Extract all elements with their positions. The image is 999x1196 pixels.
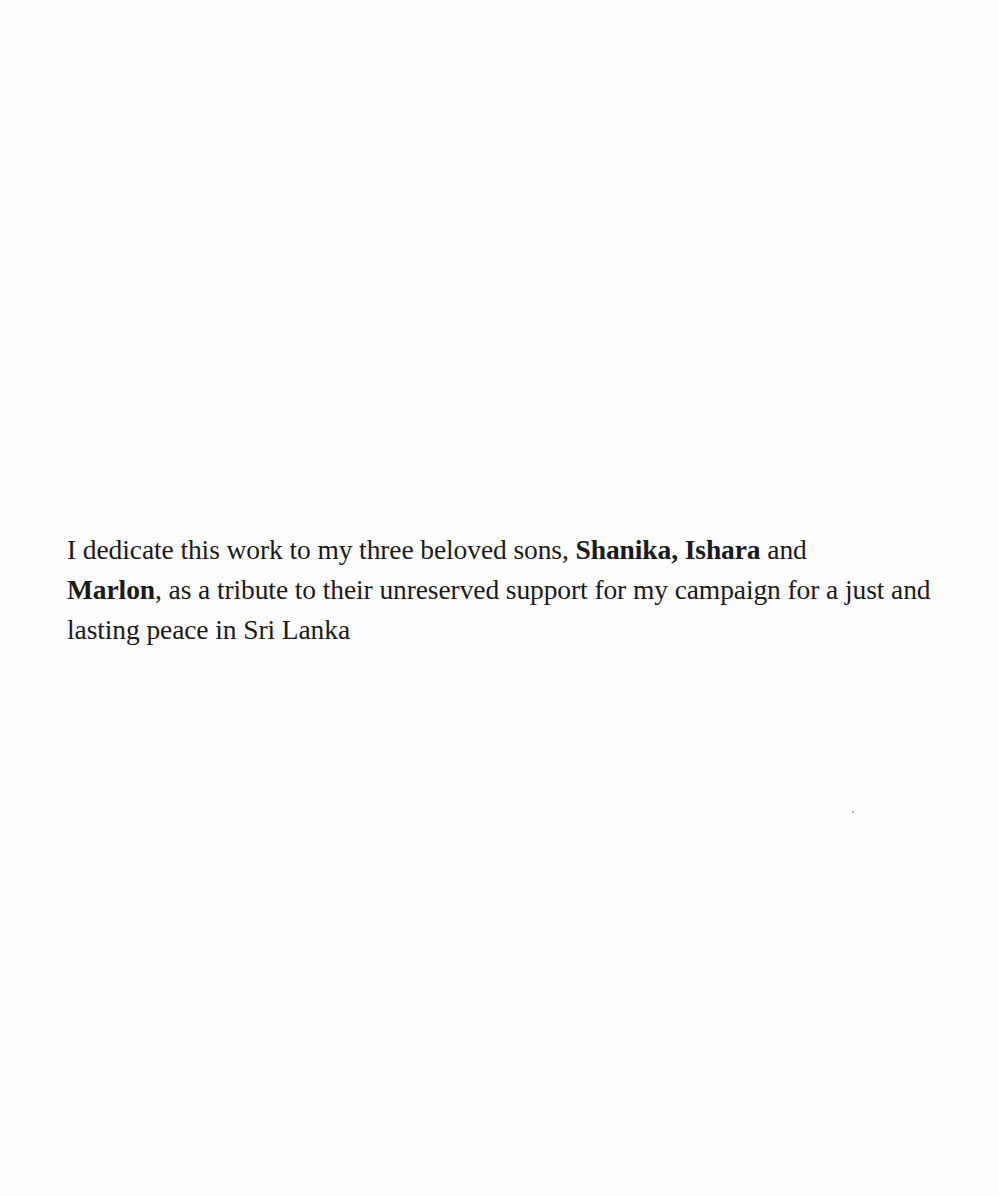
scan-speck [852,811,854,813]
dedication-text: , as a tribute to their unreserved suppo… [67,574,930,645]
son-name-third: Marlon [67,574,155,605]
son-names-first-two: Shanika, Ishara [576,534,761,565]
document-page: I dedicate this work to my three beloved… [0,0,999,1196]
dedication-text: I dedicate this work to my three beloved… [67,534,576,565]
dedication-text: and [761,534,807,565]
dedication-paragraph: I dedicate this work to my three beloved… [67,530,947,650]
